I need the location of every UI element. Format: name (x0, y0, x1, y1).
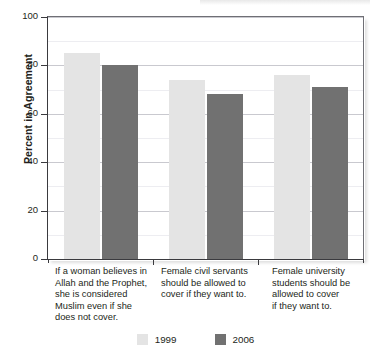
y-tick-label-100: 100 (10, 10, 38, 21)
y-tick-label-40: 40 (10, 155, 38, 166)
y-tick-40 (41, 162, 48, 163)
category-label-line: Allah and the Prophet, (55, 278, 159, 290)
y-tick-80 (41, 65, 48, 66)
bar-2006-group-1 (102, 65, 138, 259)
category-label-line: Female university (272, 266, 376, 278)
category-label-line: if they want to. (272, 301, 376, 313)
bar-2006-group-3 (312, 87, 348, 259)
category-label-1: If a woman believes inAllah and the Prop… (55, 266, 159, 324)
gridline-minor (48, 41, 363, 42)
x-tick-end-1 (48, 259, 49, 263)
y-tick-100 (41, 17, 48, 18)
y-tick-20 (41, 211, 48, 212)
category-label-line: If a woman believes in (55, 266, 159, 278)
chart-legend: 19992006 (0, 334, 391, 345)
bar-1999-group-1 (64, 53, 100, 259)
y-tick-label-80: 80 (10, 58, 38, 69)
legend-item-1999[interactable]: 1999 (137, 334, 177, 345)
gridline-major (48, 17, 363, 18)
bar-chart-figure: Percent in Agreement 020406080100 If a w… (0, 0, 391, 355)
cropped-title-remnant (200, 0, 370, 5)
bar-1999-group-2 (169, 80, 205, 259)
y-tick-0 (41, 259, 48, 260)
bar-2006-group-2 (207, 94, 243, 259)
category-label-line: Muslim even if she (55, 301, 159, 313)
x-tick-boundary-2 (258, 259, 259, 265)
category-label-line: she is considered (55, 289, 159, 301)
plot-area (47, 16, 364, 260)
category-label-line: Female civil servants (161, 266, 265, 278)
legend-swatch-icon-2006 (215, 334, 226, 345)
category-label-2: Female civil servantsshould be allowed t… (161, 266, 265, 301)
category-label-line: students should be (272, 278, 376, 290)
category-label-line: cover if they want to. (161, 289, 265, 301)
bar-1999-group-3 (274, 75, 310, 259)
category-label-line: does not cover. (55, 312, 159, 324)
legend-item-2006[interactable]: 2006 (215, 334, 255, 345)
y-tick-label-20: 20 (10, 204, 38, 215)
category-label-3: Female universitystudents should beallow… (272, 266, 376, 312)
category-label-line: should be allowed to (161, 278, 265, 290)
legend-label-2006: 2006 (233, 334, 255, 345)
y-tick-60 (41, 114, 48, 115)
y-tick-label-60: 60 (10, 107, 38, 118)
y-tick-label-0: 0 (10, 252, 38, 263)
legend-label-1999: 1999 (155, 334, 177, 345)
legend-swatch-icon-1999 (137, 334, 148, 345)
x-tick-boundary-1 (153, 259, 154, 265)
x-tick-end-2 (363, 259, 364, 263)
category-label-line: allowed to cover (272, 289, 376, 301)
